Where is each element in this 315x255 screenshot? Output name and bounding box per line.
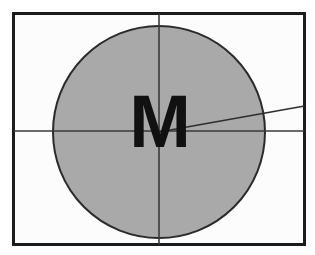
letter-m-glyph: M — [129, 80, 191, 163]
construction-diagram: M — [0, 0, 315, 255]
figure-canvas: M — [0, 0, 315, 255]
